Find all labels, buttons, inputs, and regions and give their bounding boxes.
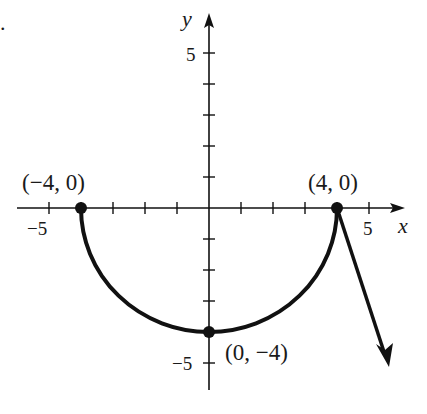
y-tick-label-5: 5 — [186, 44, 196, 65]
graph: . — [0, 0, 427, 414]
x-tick-label-neg5: −5 — [27, 218, 47, 239]
point-0-neg4 — [203, 326, 215, 338]
ray-arrow-icon — [376, 343, 393, 367]
y-axis-label: y — [180, 6, 192, 31]
corner-mark: . — [0, 10, 6, 35]
label-point-4-0: (4, 0) — [308, 170, 358, 195]
point-4-0 — [331, 202, 343, 214]
ray-line — [337, 208, 385, 355]
x-tick-label-5: 5 — [363, 218, 373, 239]
point-neg4-0 — [75, 202, 87, 214]
x-axis-label: x — [397, 213, 408, 238]
label-point-0-neg4: (0, −4) — [225, 340, 288, 365]
label-point-neg4-0: (−4, 0) — [22, 170, 85, 195]
y-tick-label-neg5: −5 — [172, 353, 192, 374]
